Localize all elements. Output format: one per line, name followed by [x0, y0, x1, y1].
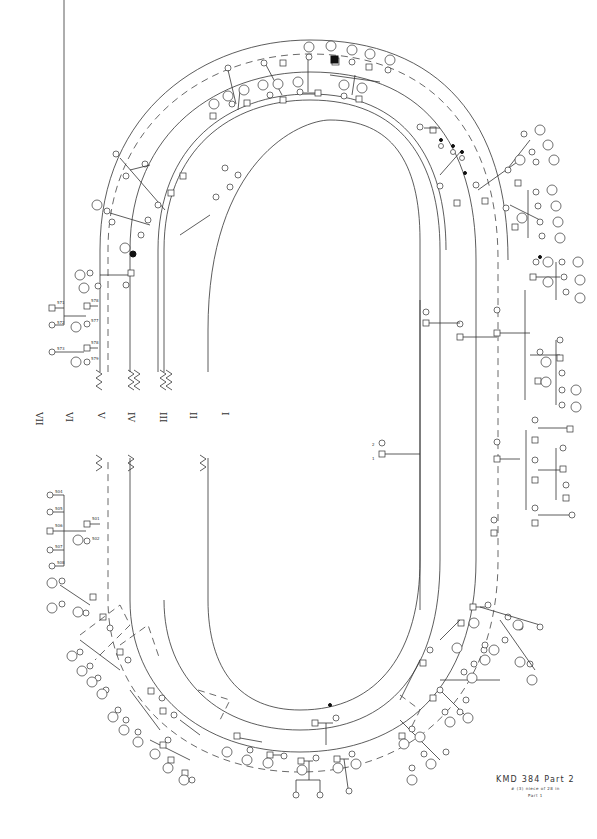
id-label: 578	[91, 298, 99, 303]
gen-label-iii: III	[158, 412, 168, 423]
id-label: 504	[55, 489, 63, 494]
gen-label-vii: VII	[34, 411, 44, 426]
gen-label-v: V	[96, 411, 106, 419]
gen-label-iv: IV	[126, 412, 136, 423]
id-label: 502	[92, 536, 100, 541]
id-label: 578	[91, 340, 99, 345]
right-branches	[525, 256, 585, 527]
id-label: 577	[91, 318, 99, 323]
caption-line2: Part 1	[496, 793, 575, 798]
caption-line1: # (3) niece of 28 in	[496, 786, 575, 791]
id-label: 507	[55, 544, 63, 549]
id-label: 506	[55, 523, 63, 528]
generation-tracks	[100, 40, 508, 772]
left-stack-top	[49, 0, 98, 367]
gen-label-i: I	[220, 412, 230, 416]
top-branches	[209, 41, 395, 119]
female-symbol	[379, 440, 385, 446]
individual-labels: 571 572 573 578 577 578 579 504 505 506 …	[55, 298, 100, 565]
id-label: 572	[57, 320, 65, 325]
founder-male-label: 1	[372, 456, 375, 461]
gen-label-vi: VI	[64, 411, 74, 422]
left-stack-bottom	[47, 492, 100, 569]
gen2-couples	[423, 307, 530, 536]
founder-female-label: 2	[372, 442, 375, 447]
male-symbol	[379, 451, 385, 457]
id-label: 505	[55, 506, 63, 511]
bottom-left-branches	[47, 578, 200, 785]
dashed-brackets	[80, 605, 420, 730]
track-breaks	[96, 370, 206, 471]
bottom-center-branches	[222, 704, 361, 799]
caption-title: KMD 384 Part 2	[496, 775, 575, 784]
generation-labels: VII VI V IV III II I	[34, 411, 230, 426]
id-label: 573	[57, 346, 65, 351]
pedigree-diagram: 2 1	[0, 0, 597, 839]
gen-label-ii: II	[188, 412, 198, 420]
bottom-right-branches	[399, 602, 543, 785]
id-label: 508	[57, 560, 65, 565]
id-label: 579	[91, 356, 99, 361]
id-label: 571	[57, 300, 65, 305]
founder-couple: 2 1	[372, 300, 420, 610]
id-label: 501	[92, 516, 100, 521]
figure-caption: KMD 384 Part 2 # (3) niece of 28 in Part…	[496, 775, 575, 798]
